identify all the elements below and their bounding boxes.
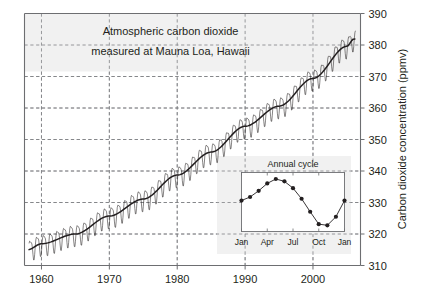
inset-x-tick-label: Jan: [338, 237, 352, 247]
inset-data-point: [248, 195, 252, 199]
inset-data-point: [342, 198, 346, 202]
y-tick-label: 350: [369, 134, 387, 146]
inset-data-point: [299, 197, 303, 201]
x-tick-label: 1970: [97, 273, 121, 285]
y-tick-label: 310: [369, 260, 387, 272]
inset-title: Annual cycle: [267, 159, 318, 169]
title-panel: [25, 14, 361, 72]
y-tick-label: 390: [369, 8, 387, 20]
co2-chart-figure: Atmospheric carbon dioxide measured at M…: [0, 0, 422, 303]
inset-plot-frame: [242, 173, 345, 232]
chart-title-line2: measured at Mauna Loa, Hawaii: [91, 45, 249, 57]
inset-x-tick-label: Jan: [235, 237, 249, 247]
x-tick-label: 1990: [233, 273, 257, 285]
inset-data-point: [257, 189, 261, 193]
inset-data-point: [317, 222, 321, 226]
inset-data-point: [265, 181, 269, 185]
y-tick-label: 330: [369, 197, 387, 209]
chart-title-line1: Atmospheric carbon dioxide: [103, 25, 239, 37]
inset-x-tick-label: Apr: [261, 237, 274, 247]
inset-data-point: [291, 186, 295, 190]
y-tick-label: 380: [369, 39, 387, 51]
y-tick-label: 320: [369, 228, 387, 240]
y-tick-label: 370: [369, 71, 387, 83]
inset-x-tick-label: Oct: [312, 237, 326, 247]
inset-data-point: [325, 223, 329, 227]
y-axis-title: Carbon dioxide concentration (ppmv): [396, 49, 408, 229]
inset-data-point: [274, 177, 278, 181]
inset-data-point: [308, 210, 312, 214]
y-tick-label: 340: [369, 165, 387, 177]
x-tick-label: 2000: [301, 273, 325, 285]
y-tick-label: 360: [369, 102, 387, 114]
x-tick-label: 1980: [165, 273, 189, 285]
x-tick-label: 1960: [29, 273, 53, 285]
inset-x-tick-label: Jul: [288, 237, 299, 247]
inset-data-point: [334, 215, 338, 219]
inset-data-point: [239, 198, 243, 202]
inset-data-point: [282, 179, 286, 183]
